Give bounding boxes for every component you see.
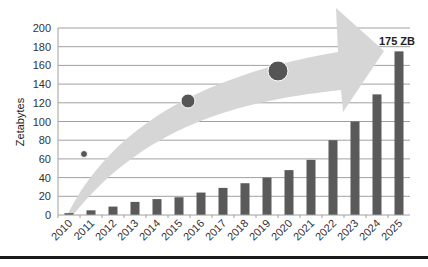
x-tick-label: 2025	[379, 217, 405, 243]
y-tick-label: 60	[39, 153, 51, 165]
x-tick-label: 2018	[225, 217, 251, 243]
bottom-rule	[0, 256, 428, 259]
x-tick-label: 2021	[291, 217, 317, 243]
circle-small-icon	[81, 151, 88, 158]
x-tick-label: 2011	[71, 217, 96, 242]
y-axis-label: Zetabytes	[14, 97, 26, 146]
x-tick-label: 2013	[115, 217, 141, 243]
y-tick-label: 180	[33, 41, 51, 53]
x-tick-label: 2016	[181, 217, 207, 243]
x-tick-label: 2024	[357, 217, 383, 243]
bar-2014	[153, 199, 162, 215]
x-tick-label: 2017	[203, 217, 229, 243]
x-tick-label: 2015	[159, 217, 185, 243]
bar-2019	[263, 178, 272, 215]
y-tick-label: 80	[39, 134, 51, 146]
y-tick-label: 0	[45, 209, 51, 221]
circle-large-icon	[268, 61, 288, 81]
y-tick-label: 200	[33, 22, 51, 34]
bar-2016	[197, 193, 206, 215]
y-tick-label: 40	[39, 172, 51, 184]
x-axis-ticks: 2010201120122013201420152016201720182019…	[49, 215, 405, 243]
y-axis-ticks: 020406080100120140160180200	[33, 22, 51, 221]
annotation-175zb: 175 ZB	[379, 35, 415, 47]
bar-2015	[175, 197, 184, 215]
y-tick-label: 20	[39, 190, 51, 202]
bar-2024	[373, 94, 382, 215]
x-tick-label: 2010	[49, 217, 75, 243]
x-tick-label: 2023	[335, 217, 361, 243]
bar-2023	[351, 122, 360, 216]
y-tick-label: 140	[33, 78, 51, 90]
x-tick-label: 2020	[269, 217, 295, 243]
x-tick-label: 2022	[313, 217, 339, 243]
bar-2011	[87, 210, 96, 215]
y-tick-label: 120	[33, 97, 51, 109]
bar-2021	[307, 160, 316, 215]
y-tick-label: 160	[33, 59, 51, 71]
circle-medium-icon	[181, 94, 195, 108]
bar-2013	[131, 202, 140, 215]
x-tick-label: 2014	[137, 217, 163, 243]
bar-2018	[241, 183, 250, 215]
x-tick-label: 2019	[247, 217, 273, 243]
chart: 020406080100120140160180200 Zetabytes 20…	[0, 0, 428, 267]
bar-2020	[285, 170, 294, 215]
bar-2022	[329, 140, 338, 215]
bar-2025	[395, 51, 404, 215]
bar-2017	[219, 188, 228, 215]
y-tick-label: 100	[33, 116, 51, 128]
x-tick-label: 2012	[93, 217, 119, 243]
bar-2012	[109, 207, 118, 215]
